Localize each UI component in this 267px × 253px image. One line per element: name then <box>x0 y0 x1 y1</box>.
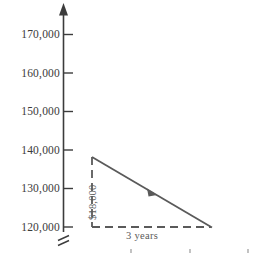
y-tick-label: 120,000 <box>2 221 60 233</box>
y-tick-150000: 150,000 <box>0 105 60 117</box>
y-tick-label: 170,000 <box>2 28 60 40</box>
y-tick-120000: 120,000 <box>0 221 60 233</box>
rise-annotation-label: $18,000 <box>87 184 98 220</box>
y-axis-arrowhead-icon <box>59 3 68 16</box>
y-tick-label: 130,000 <box>2 182 60 194</box>
y-tick-160000: 160,000 <box>0 67 60 79</box>
y-tick-140000: 140,000 <box>0 144 60 156</box>
y-tick-170000: 170,000 <box>0 28 60 40</box>
y-tick-label: 140,000 <box>2 144 60 156</box>
y-tick-label: 160,000 <box>2 67 60 79</box>
x-axis-ticks <box>131 249 248 253</box>
run-annotation-label: 3 years <box>126 230 158 241</box>
y-tick-130000: 130,000 <box>0 182 60 194</box>
y-tick-label: 150,000 <box>2 105 60 117</box>
y-axis-ticks <box>64 35 73 228</box>
axis-break-icon <box>58 236 69 246</box>
slope-triangle-figure: 170,000 160,000 150,000 140,000 130,000 … <box>0 0 267 253</box>
